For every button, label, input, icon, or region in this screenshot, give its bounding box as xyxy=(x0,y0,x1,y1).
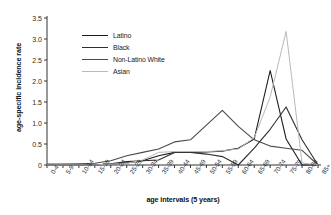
legend-item-latino: Latino xyxy=(82,30,202,40)
chart-legend: Latino Black Non-Latino White Asian xyxy=(82,30,202,79)
legend-label-non-latino-white: Non-Latino White xyxy=(113,56,165,63)
legend-item-non-latino-white: Non-Latino White xyxy=(82,54,202,64)
legend-item-asian: Asian xyxy=(82,67,202,77)
legend-label-asian: Asian xyxy=(113,68,130,75)
legend-item-black: Black xyxy=(82,42,202,52)
legend-swatch-latino xyxy=(82,35,108,36)
x-axis-title: age intervals (5 years) xyxy=(47,195,319,204)
series-line-latino xyxy=(47,71,318,166)
legend-label-black: Black xyxy=(113,44,129,51)
legend-label-latino: Latino xyxy=(113,32,131,39)
legend-swatch-black xyxy=(82,47,108,48)
series-line-black xyxy=(47,107,318,165)
legend-swatch-asian xyxy=(82,71,108,72)
legend-swatch-non-latino-white xyxy=(82,59,108,60)
